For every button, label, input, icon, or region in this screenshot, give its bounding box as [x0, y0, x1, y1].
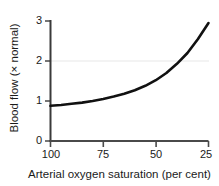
x-tick-label-75: 75	[89, 149, 117, 160]
data-curve-blood-flow	[51, 23, 209, 106]
x-tick-label-100: 100	[37, 149, 65, 160]
chart-figure: 3 2 1 0 100 75 50 25 Blood flow (× norma…	[0, 0, 219, 186]
y-tick-label-3: 3	[28, 15, 42, 26]
x-axis-title: Arterial oxygen saturation (per cent)	[20, 168, 219, 180]
x-tick-label-25: 25	[192, 149, 219, 160]
y-tick-label-1: 1	[28, 95, 42, 106]
x-tick-label-50: 50	[142, 149, 170, 160]
y-tick-label-0: 0	[28, 135, 42, 146]
y-tick-label-2: 2	[28, 55, 42, 66]
y-axis-title: Blood flow (× normal)	[8, 12, 20, 144]
